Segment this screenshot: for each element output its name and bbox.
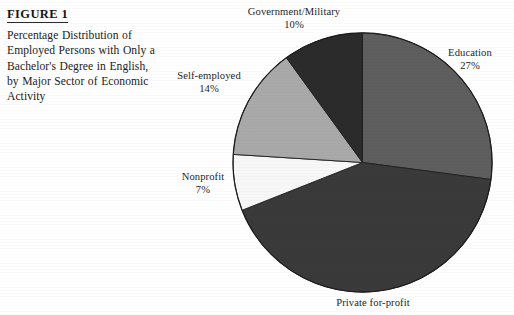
slice-label-government-military-pct: 10% (218, 18, 370, 31)
slice-label-self-employed: Self-employed 14% (163, 69, 255, 95)
slice-label-self-employed-name: Self-employed (163, 69, 255, 82)
slice-label-nonprofit: Nonprofit 7% (163, 170, 243, 196)
slice-label-nonprofit-name: Nonprofit (163, 170, 243, 183)
slice-label-government-military-name: Government/Military (218, 5, 370, 18)
slice-label-self-employed-pct: 14% (163, 82, 255, 95)
slice-label-private-for-profit-name: Private for-profit (318, 296, 428, 309)
pie-chart: Government/Military 10% Education 27% Se… (0, 0, 514, 315)
slice-label-education-name: Education (432, 46, 508, 59)
slice-label-education: Education 27% (432, 46, 508, 72)
slice-label-education-pct: 27% (432, 59, 508, 72)
slice-label-government-military: Government/Military 10% (218, 5, 370, 31)
slice-label-nonprofit-pct: 7% (163, 183, 243, 196)
slice-label-private-for-profit: Private for-profit (318, 296, 428, 309)
